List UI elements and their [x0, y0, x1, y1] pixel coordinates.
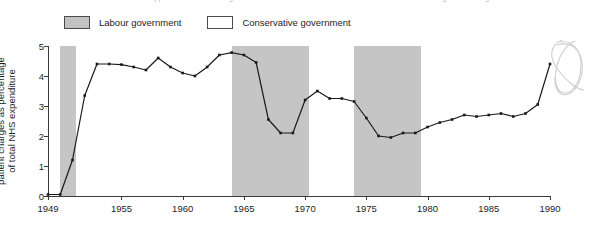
cut-off-header-right: second cut-off running header fragment [368, 0, 507, 2]
x-axis-tick [305, 196, 306, 200]
x-axis-tick [121, 196, 122, 200]
data-point-marker [255, 61, 258, 64]
data-series-line [48, 46, 550, 196]
data-point-marker [451, 118, 454, 121]
data-point-marker [365, 117, 368, 120]
data-point-marker [487, 114, 490, 117]
y-axis-tick-label: 3 [26, 101, 44, 112]
x-axis-tick [489, 196, 490, 200]
data-point-marker [426, 126, 429, 129]
data-point-marker [132, 66, 135, 69]
data-point-marker [108, 63, 111, 66]
x-axis-tick [183, 196, 184, 200]
data-point-marker [512, 115, 515, 118]
hand-drawn-ellipse-icon [552, 40, 584, 95]
data-point-marker [181, 72, 184, 75]
x-axis-line [48, 196, 550, 197]
data-point-marker [304, 99, 307, 102]
data-point-marker [243, 54, 246, 57]
y-axis-title: patient charges as percentage of total N… [0, 57, 17, 185]
legend-item-conservative: Conservative government [207, 16, 350, 29]
plot-area: patient charges as percentage of total N… [48, 46, 550, 196]
data-point-marker [71, 159, 74, 162]
data-point-marker [169, 66, 172, 69]
data-point-marker [230, 51, 233, 54]
data-point-marker [353, 100, 356, 103]
legend-label-conservative: Conservative government [242, 17, 350, 28]
data-point-marker [279, 132, 282, 135]
y-axis-tick-label: 4 [26, 71, 44, 82]
y-axis-tick [44, 106, 48, 107]
x-axis-tick-label: 1985 [478, 203, 499, 214]
x-axis-tick-label: 1955 [111, 203, 132, 214]
cut-off-header-left: opposite cut-off running header text [150, 0, 275, 2]
x-axis-tick [428, 196, 429, 200]
y-axis-tick-label: 0 [26, 191, 44, 202]
cut-off-header-text: opposite cut-off running header text sec… [0, 0, 598, 9]
chart-legend: Labour government Conservative governmen… [64, 14, 351, 30]
series-polyline [48, 53, 550, 195]
data-point-marker [218, 54, 221, 57]
x-axis-tick [48, 196, 49, 200]
data-point-marker [475, 115, 478, 118]
data-point-marker [120, 63, 123, 66]
data-point-marker [267, 118, 270, 121]
data-point-marker [316, 90, 319, 93]
x-axis-tick-label: 1970 [295, 203, 316, 214]
x-axis-tick-label: 1965 [233, 203, 254, 214]
x-axis-tick [244, 196, 245, 200]
x-axis-tick-label: 1975 [356, 203, 377, 214]
legend-swatch-conservative-icon [207, 16, 233, 29]
y-axis-tick-label: 1 [26, 161, 44, 172]
y-axis-tick [44, 166, 48, 167]
y-axis-tick-label: 5 [26, 41, 44, 52]
y-axis-title-line2: of total NHS expenditure [6, 57, 17, 185]
legend-swatch-labour-icon [64, 16, 90, 29]
data-point-marker [194, 75, 197, 78]
data-point-marker [390, 136, 393, 139]
y-axis-tick-label: 2 [26, 131, 44, 142]
chart-figure: opposite cut-off running header text sec… [0, 0, 598, 235]
data-point-marker [439, 121, 442, 124]
y-axis-tick [44, 76, 48, 77]
data-point-marker [463, 114, 466, 117]
data-point-marker [292, 132, 295, 135]
legend-item-labour: Labour government [64, 16, 181, 29]
data-point-marker [145, 69, 148, 72]
data-point-marker [328, 97, 331, 100]
data-point-marker [96, 63, 99, 66]
x-axis-tick [366, 196, 367, 200]
x-axis-tick-label: 1990 [539, 203, 560, 214]
data-point-marker [206, 66, 209, 69]
data-point-marker [549, 63, 552, 66]
data-point-marker [83, 94, 86, 97]
data-point-marker [377, 135, 380, 138]
x-axis-tick-label: 1980 [417, 203, 438, 214]
data-point-marker [157, 57, 160, 60]
x-axis-tick-label: 1960 [172, 203, 193, 214]
data-point-marker [341, 97, 344, 100]
data-point-marker [536, 103, 539, 106]
data-point-marker [59, 193, 62, 196]
x-axis-tick [550, 196, 551, 200]
x-axis-tick-label: 1949 [37, 203, 58, 214]
y-axis-tick [44, 136, 48, 137]
data-point-marker [524, 112, 527, 115]
y-axis-tick [44, 46, 48, 47]
data-point-marker [402, 132, 405, 135]
data-point-marker [414, 132, 417, 135]
data-point-marker [500, 112, 503, 115]
legend-label-labour: Labour government [99, 17, 181, 28]
